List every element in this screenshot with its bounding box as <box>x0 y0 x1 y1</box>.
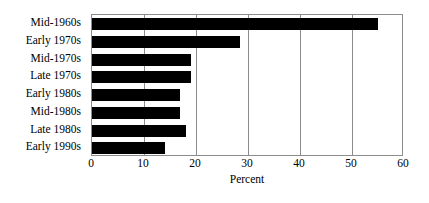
bar <box>92 18 378 30</box>
category-label: Mid-1960s <box>31 14 81 32</box>
x-tick-label: 60 <box>383 157 423 169</box>
bar-row <box>92 122 402 140</box>
bar <box>92 36 240 48</box>
x-tick-label: 20 <box>175 157 215 169</box>
bar <box>92 71 191 83</box>
x-tick-label: 10 <box>123 157 163 169</box>
x-axis-tick-labels: 0102030405060 <box>0 157 429 173</box>
bar-chart: Mid-1960sEarly 1970sMid-1970sLate 1970sE… <box>0 0 429 203</box>
category-label: Late 1980s <box>30 121 81 139</box>
bar <box>92 125 186 137</box>
bar <box>92 107 180 119</box>
bar <box>92 142 165 154</box>
x-axis-title: Percent <box>227 173 267 185</box>
bar-row <box>92 15 402 33</box>
category-label: Early 1970s <box>26 32 81 50</box>
category-label: Mid-1970s <box>31 50 81 68</box>
category-label: Late 1970s <box>30 67 81 85</box>
bar <box>92 54 191 66</box>
x-tick-label: 0 <box>71 157 111 169</box>
bar <box>92 89 180 101</box>
category-label: Early 1980s <box>26 85 81 103</box>
x-tick-label: 40 <box>279 157 319 169</box>
category-label: Mid-1980s <box>31 103 81 121</box>
x-tick-label: 30 <box>227 157 267 169</box>
bar-row <box>92 33 402 51</box>
bar-row <box>92 104 402 122</box>
bar-row <box>92 86 402 104</box>
bar-row <box>92 51 402 69</box>
bar-row <box>92 68 402 86</box>
category-axis-labels: Mid-1960sEarly 1970sMid-1970sLate 1970sE… <box>0 14 86 156</box>
plot-area <box>91 14 403 156</box>
bar-row <box>92 139 402 157</box>
category-label: Early 1990s <box>26 138 81 156</box>
x-tick-label: 50 <box>331 157 371 169</box>
